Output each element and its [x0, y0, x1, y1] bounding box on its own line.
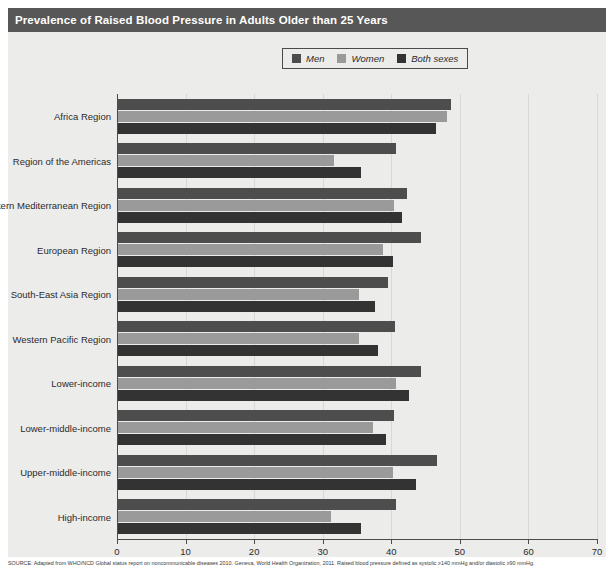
bar-men[interactable] [118, 410, 394, 421]
category-label: Africa Region [54, 111, 111, 122]
category-label: Eastern Mediterranean Region [0, 200, 111, 211]
bar-group [118, 232, 597, 267]
chart-footnote: SOURCE: Adapted from WHO/NCD Global stat… [8, 560, 606, 580]
bar-men[interactable] [118, 366, 421, 377]
bar-men[interactable] [118, 321, 395, 332]
bar-women[interactable] [118, 289, 359, 300]
bar-women[interactable] [118, 422, 373, 433]
legend-label: Both sexes [411, 53, 458, 64]
legend-swatch-women [337, 54, 346, 63]
category-label: Lower-income [51, 378, 111, 389]
category-label: High-income [58, 511, 111, 522]
chart-figure: Prevalence of Raised Blood Pressure in A… [0, 0, 614, 584]
tickmark-30 [323, 539, 324, 544]
bar-group [118, 143, 597, 178]
chart-panel: MenWomenBoth sexes 010203040506070 Afric… [8, 32, 606, 557]
bar-women[interactable] [118, 244, 383, 255]
legend-swatch-both-sexes [397, 54, 406, 63]
x-axis-line [117, 539, 597, 540]
bar-group [118, 277, 597, 312]
bar-group [118, 499, 597, 534]
bar-both-sexes[interactable] [118, 434, 386, 445]
bar-men[interactable] [118, 143, 396, 154]
bar-women[interactable] [118, 155, 334, 166]
legend-label: Men [306, 53, 324, 64]
bar-both-sexes[interactable] [118, 301, 375, 312]
bar-both-sexes[interactable] [118, 479, 416, 490]
legend-item-women[interactable]: Women [337, 53, 384, 64]
tickmark-0 [117, 539, 118, 544]
category-label: Region of the Americas [13, 155, 111, 166]
bar-men[interactable] [118, 455, 437, 466]
x-tick-label: 70 [592, 546, 603, 557]
legend-item-men[interactable]: Men [292, 53, 324, 64]
x-tick-label: 0 [114, 546, 119, 557]
bar-group [118, 410, 597, 445]
x-tick-label: 50 [455, 546, 466, 557]
bar-both-sexes[interactable] [118, 123, 436, 134]
x-tick-label: 30 [317, 546, 328, 557]
bar-women[interactable] [118, 200, 394, 211]
category-label: South-East Asia Region [11, 289, 111, 300]
bar-both-sexes[interactable] [118, 523, 361, 534]
bar-both-sexes[interactable] [118, 212, 402, 223]
bar-men[interactable] [118, 188, 407, 199]
category-label: Western Pacific Region [12, 333, 111, 344]
bar-women[interactable] [118, 467, 393, 478]
bar-group [118, 455, 597, 490]
bar-men[interactable] [118, 277, 388, 288]
bar-both-sexes[interactable] [118, 345, 378, 356]
tickmark-20 [254, 539, 255, 544]
x-tick-label: 60 [523, 546, 534, 557]
bar-men[interactable] [118, 99, 451, 110]
legend-label: Women [351, 53, 384, 64]
tickmark-60 [528, 539, 529, 544]
category-label: European Region [37, 244, 111, 255]
bar-both-sexes[interactable] [118, 256, 393, 267]
gridline-70 [597, 94, 598, 539]
bar-both-sexes[interactable] [118, 167, 361, 178]
bar-men[interactable] [118, 232, 421, 243]
plot-area: 010203040506070 [117, 94, 597, 539]
bar-both-sexes[interactable] [118, 390, 409, 401]
tickmark-40 [391, 539, 392, 544]
bar-group [118, 366, 597, 401]
bar-men[interactable] [118, 499, 396, 510]
x-tick-label: 10 [180, 546, 191, 557]
page-title: Prevalence of Raised Blood Pressure in A… [15, 14, 388, 26]
bar-women[interactable] [118, 511, 331, 522]
category-label: Upper-middle-income [20, 467, 111, 478]
tickmark-70 [597, 539, 598, 544]
bar-group [118, 99, 597, 134]
bar-women[interactable] [118, 333, 359, 344]
legend-swatch-men [292, 54, 301, 63]
chart-title-bar: Prevalence of Raised Blood Pressure in A… [8, 8, 606, 32]
legend-item-both-sexes[interactable]: Both sexes [397, 53, 458, 64]
bar-women[interactable] [118, 378, 396, 389]
tickmark-50 [460, 539, 461, 544]
x-tick-label: 40 [386, 546, 397, 557]
chart-legend: MenWomenBoth sexes [282, 48, 468, 69]
tickmark-10 [186, 539, 187, 544]
bar-women[interactable] [118, 111, 447, 122]
category-label: Lower-middle-income [20, 422, 111, 433]
x-tick-label: 20 [249, 546, 260, 557]
bar-group [118, 321, 597, 356]
bar-group [118, 188, 597, 223]
